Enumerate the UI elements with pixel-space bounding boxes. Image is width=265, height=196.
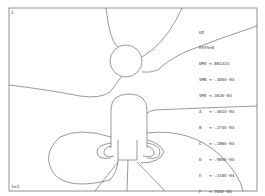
contour-line (127, 160, 128, 191)
contour-line (140, 140, 164, 163)
legend-stat: DMX =.001324 (199, 61, 234, 66)
frame-label-bottom-left: 1=1 (11, 184, 19, 189)
legend-header: UX (199, 30, 234, 35)
contour-line (137, 162, 165, 191)
legend-level: B =-.273E-03 (199, 125, 234, 130)
legend-level: F =.765E-04 (199, 189, 234, 194)
legend-level: C =-.186E-03 (199, 141, 234, 146)
legend-level: A =-.361E-03 (199, 109, 234, 114)
legend: UX RSYS=0 DMX =.001324 SMN =-.405E-03 SM… (199, 19, 234, 196)
contour-line (49, 132, 118, 184)
contour-line (95, 162, 118, 191)
legend-header: RSYS=0 (199, 45, 234, 50)
contour-line (104, 146, 114, 157)
bullet-body (111, 94, 147, 160)
circle-body (110, 45, 142, 77)
legend-level: D =-.985E-04 (199, 157, 234, 162)
contour-line (9, 77, 121, 97)
contour-line (142, 8, 182, 57)
legend-stat: SMN =-.405E-03 (199, 77, 234, 82)
contour-line (143, 146, 154, 157)
legend-level: E =-.110E-04 (199, 173, 234, 178)
contour-line (106, 8, 118, 47)
legend-stat: SMX =.363E-03 (199, 93, 234, 98)
frame-label-top-left: 1 (11, 10, 14, 15)
